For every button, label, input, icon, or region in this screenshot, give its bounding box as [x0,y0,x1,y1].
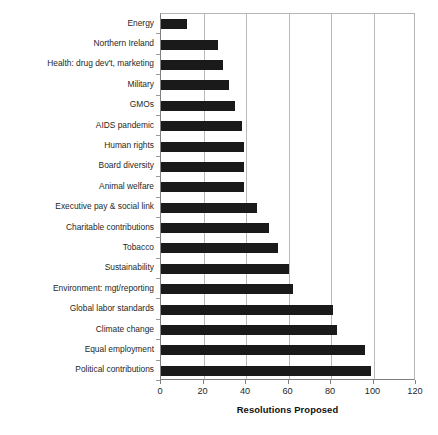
y-axis-tick [156,135,160,136]
bar [161,80,229,90]
x-axis-tick-label: 40 [230,386,260,397]
category-label: Charitable contributions [0,222,154,232]
y-axis-tick [156,197,160,198]
x-axis-tick-label: 100 [358,386,388,397]
x-axis-tick-label: 60 [273,386,303,397]
x-axis-tick-label: 20 [188,386,218,397]
bar-row [161,320,414,340]
category-label: Energy [0,18,154,28]
category-label: Sustainability [0,262,154,272]
chart-figure: EnergyNorthern IrelandHealth: drug dev't… [0,0,438,435]
y-axis-tick [156,33,160,34]
x-axis-tick [415,380,416,384]
bar [161,121,242,131]
plot-area [160,13,415,380]
y-axis-tick [156,74,160,75]
category-label: Military [0,79,154,89]
category-label: Tobacco [0,242,154,252]
bar [161,182,244,192]
bar [161,243,278,253]
x-axis-tick [288,380,289,384]
y-axis-tick [156,115,160,116]
bar-row [161,75,414,95]
category-label: Environment: mgt/reporting [0,283,154,293]
y-axis-tick [156,360,160,361]
bar-row [161,55,414,75]
y-axis-tick [156,380,160,381]
y-axis-tick [156,217,160,218]
category-label: Political contributions [0,364,154,374]
category-label: Global labor standards [0,303,154,313]
category-label: Human rights [0,140,154,150]
bar [161,264,289,274]
bar-row [161,279,414,299]
bar-row [161,218,414,238]
bar [161,142,244,152]
bar-row [161,96,414,116]
category-label: Executive pay & social link [0,201,154,211]
bar [161,101,235,111]
x-axis-tick [330,380,331,384]
bar [161,162,244,172]
y-axis-tick [156,176,160,177]
bar-row [161,340,414,360]
bar-row [161,157,414,177]
y-axis-tick [156,237,160,238]
bar [161,325,337,335]
x-axis-title: Resolutions Proposed [160,404,415,415]
bar [161,366,371,376]
x-axis-tick-label: 0 [145,386,175,397]
bar [161,60,223,70]
y-axis-tick [156,156,160,157]
category-label: Northern Ireland [0,38,154,48]
bar-row [161,177,414,197]
y-axis-tick [156,54,160,55]
bar-row [161,14,414,34]
bar-row [161,238,414,258]
bar [161,203,257,213]
x-axis-tick-label: 80 [315,386,345,397]
bar-row [161,116,414,136]
bar-row [161,299,414,319]
x-axis-tick [245,380,246,384]
y-axis-tick [156,339,160,340]
category-label: Equal employment [0,344,154,354]
bar-row [161,198,414,218]
bar [161,19,187,29]
category-label: Animal welfare [0,181,154,191]
bar [161,345,365,355]
bar-row [161,136,414,156]
y-axis-tick [156,258,160,259]
y-axis-tick [156,298,160,299]
category-label: Board diversity [0,160,154,170]
bar-row [161,361,414,381]
bar [161,223,269,233]
x-axis-tick [203,380,204,384]
bar [161,40,218,50]
bar-row [161,259,414,279]
bar-series [161,14,414,379]
bar [161,284,293,294]
category-label: Health: drug dev't, marketing [0,58,154,68]
x-axis-tick [373,380,374,384]
bar-row [161,34,414,54]
category-label: AIDS pandemic [0,120,154,130]
category-label: Climate change [0,324,154,334]
x-axis-tick-label: 120 [400,386,430,397]
category-label: GMOs [0,99,154,109]
y-axis-tick [156,278,160,279]
y-axis-tick [156,319,160,320]
x-axis-tick [160,380,161,384]
category-axis-labels: EnergyNorthern IrelandHealth: drug dev't… [0,13,154,380]
bar [161,305,333,315]
y-axis-tick [156,95,160,96]
